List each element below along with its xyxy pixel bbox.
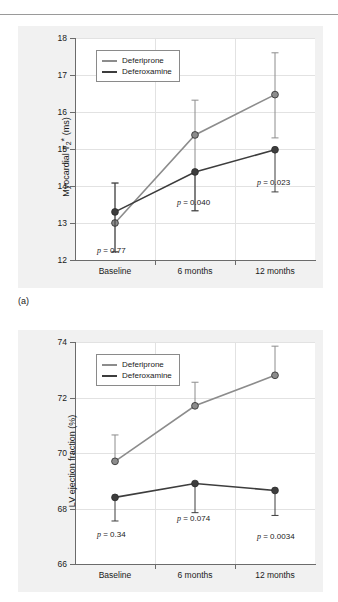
y-axis-tick-label: 12 — [58, 255, 67, 265]
y-axis-label-a-unit: (ms) — [61, 117, 71, 138]
y-axis-label-a-main: Myocardial T — [61, 145, 71, 196]
x-axis-tick-mark — [155, 564, 156, 569]
y-axis-tick-label: 66 — [58, 559, 67, 569]
legend-item-deferiprone: Deferiprone — [102, 359, 172, 370]
legend-label-deferiprone: Deferiprone — [122, 359, 164, 370]
data-point-marker — [272, 487, 279, 494]
x-axis-tick-mark — [235, 564, 236, 569]
legend-label-deferoxamine: Deferoxamine — [122, 66, 172, 77]
legend-swatch-deferoxamine — [102, 71, 117, 73]
p-value-annotation: p = 0.023 — [257, 178, 290, 187]
x-axis-tick-label: 12 months — [255, 570, 295, 580]
x-axis-tick-label: 6 months — [178, 266, 213, 276]
y-axis-tick-label: 18 — [58, 33, 67, 43]
legend-swatch-deferiprone — [102, 364, 117, 366]
x-axis-line-b — [75, 564, 316, 565]
y-axis-tick-label: 72 — [58, 393, 67, 403]
data-point-marker — [192, 480, 199, 487]
x-axis-tick-mark — [155, 260, 156, 265]
chart-panel-b: 6668707274 Baseline6 months12 months LV … — [18, 330, 323, 592]
legend-item-deferoxamine: Deferoxamine — [102, 370, 172, 381]
x-axis-tick-label: 12 months — [255, 266, 295, 276]
data-point-marker — [192, 132, 199, 139]
y-axis-tick-label: 16 — [58, 107, 67, 117]
legend-b: Deferiprone Deferoxamine — [96, 354, 180, 386]
data-point-marker — [112, 494, 119, 501]
p-value-annotation: p = 0.074 — [177, 514, 210, 523]
p-value-annotation: p = 0.040 — [177, 198, 210, 207]
subfigure-label-a: (a) — [18, 296, 29, 306]
top-divider-rule — [0, 14, 338, 15]
x-axis-line-a — [75, 260, 316, 261]
data-point-marker — [272, 372, 279, 379]
y-axis-tick-label: 68 — [58, 504, 67, 514]
y-axis-label-a-star: * — [59, 138, 69, 142]
legend-swatch-deferiprone — [102, 60, 117, 62]
data-point-marker — [112, 458, 119, 465]
legend-swatch-deferoxamine — [102, 375, 117, 377]
p-value-annotation: p = 0.34 — [97, 530, 126, 539]
data-point-marker — [192, 402, 199, 409]
legend-label-deferiprone: Deferiprone — [122, 55, 164, 66]
y-axis-tick-label: 13 — [58, 218, 67, 228]
legend-item-deferiprone: Deferiprone — [102, 55, 172, 66]
x-axis-tick-label: Baseline — [99, 570, 132, 580]
p-value-annotation: p = 0.77 — [97, 246, 126, 255]
p-value-annotation: p = 0.0034 — [257, 532, 295, 541]
figure-page: 12131415161718 Baseline6 months12 months… — [0, 0, 338, 602]
x-axis-tick-label: 6 months — [178, 570, 213, 580]
data-point-marker — [272, 146, 279, 153]
legend-a: Deferiprone Deferoxamine — [96, 50, 180, 82]
y-axis-label-a: Myocardial T2* (ms) — [59, 117, 72, 196]
data-point-marker — [272, 91, 279, 98]
y-axis-tick-label: 70 — [58, 448, 67, 458]
y-axis-label-a-subscript: 2 — [65, 141, 72, 145]
data-point-marker — [112, 209, 119, 216]
chart-panel-a: 12131415161718 Baseline6 months12 months… — [18, 26, 323, 288]
x-axis-tick-mark — [235, 260, 236, 265]
legend-label-deferoxamine: Deferoxamine — [122, 370, 172, 381]
legend-item-deferoxamine: Deferoxamine — [102, 66, 172, 77]
y-axis-tick-label: 17 — [58, 70, 67, 80]
data-point-marker — [192, 169, 199, 176]
x-axis-tick-label: Baseline — [99, 266, 132, 276]
y-axis-tick-label: 74 — [58, 337, 67, 347]
